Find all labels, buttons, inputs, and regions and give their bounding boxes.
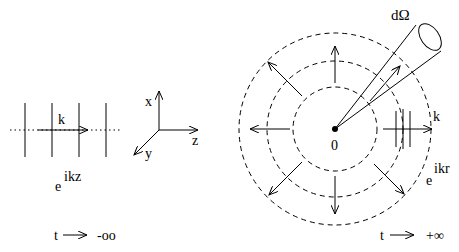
origin-label: 0 bbox=[331, 138, 338, 153]
scattering-diagram: k e ikz x z y t -oo dΩ 0 k e bbox=[0, 0, 459, 252]
time-limit-left: -oo bbox=[97, 228, 116, 243]
radial-arrow-upleft bbox=[268, 62, 302, 96]
cone-edge-upper bbox=[335, 25, 416, 129]
solid-angle-label: dΩ bbox=[391, 7, 410, 23]
time-limit-right: +∞ bbox=[426, 228, 444, 243]
radial-arrow-downleft bbox=[269, 162, 302, 195]
z-axis-label: z bbox=[192, 133, 198, 148]
radial-arrow-downright bbox=[374, 164, 404, 194]
wave-vector-label-right: k bbox=[433, 109, 440, 124]
coordinate-axes bbox=[134, 91, 198, 155]
cone-radial-arrow bbox=[370, 66, 400, 101]
x-axis-label: x bbox=[145, 94, 152, 109]
wave-vector-label-left: k bbox=[58, 112, 65, 127]
plane-wave-exponent: ikz bbox=[64, 169, 81, 184]
y-axis-label: y bbox=[145, 146, 152, 161]
origin-point bbox=[332, 126, 338, 132]
time-label-left: t bbox=[54, 228, 58, 243]
plane-wave-figure bbox=[10, 103, 120, 157]
spherical-wave-exponent: ikr bbox=[434, 161, 450, 176]
spherical-wave-base: e bbox=[426, 173, 432, 188]
cone-aperture bbox=[414, 20, 446, 55]
plane-wave-base: e bbox=[55, 179, 61, 194]
time-label-right: t bbox=[380, 228, 384, 243]
spherical-wave-figure bbox=[239, 20, 446, 225]
